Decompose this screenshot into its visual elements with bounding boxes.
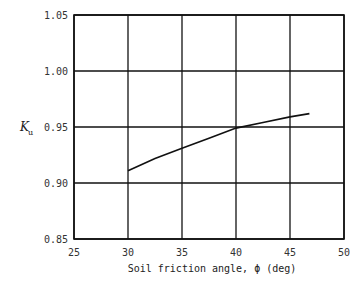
- x-tick-label: 40: [230, 247, 242, 258]
- x-tick-labels: 253035404550: [68, 247, 350, 258]
- x-tick-label: 30: [122, 247, 134, 258]
- series-line-ku: [128, 114, 309, 171]
- y-tick-label: 1.00: [44, 66, 68, 77]
- y-tick-label: 1.05: [44, 10, 68, 21]
- y-tick-label: 0.95: [44, 122, 68, 133]
- y-tick-labels: 0.850.900.951.001.05: [44, 10, 68, 245]
- y-tick-label: 0.85: [44, 234, 68, 245]
- x-tick-label: 45: [284, 247, 296, 258]
- y-axis-label-subscript: u: [28, 128, 33, 137]
- x-axis-label: Soil friction angle, ϕ (deg): [128, 263, 297, 274]
- x-tick-label: 35: [176, 247, 188, 258]
- x-tick-label: 25: [68, 247, 80, 258]
- chart: 253035404550 0.850.900.951.001.05 Soil f…: [0, 0, 364, 293]
- grid-lines: [74, 15, 344, 239]
- y-tick-label: 0.90: [44, 178, 68, 189]
- x-tick-label: 50: [338, 247, 350, 258]
